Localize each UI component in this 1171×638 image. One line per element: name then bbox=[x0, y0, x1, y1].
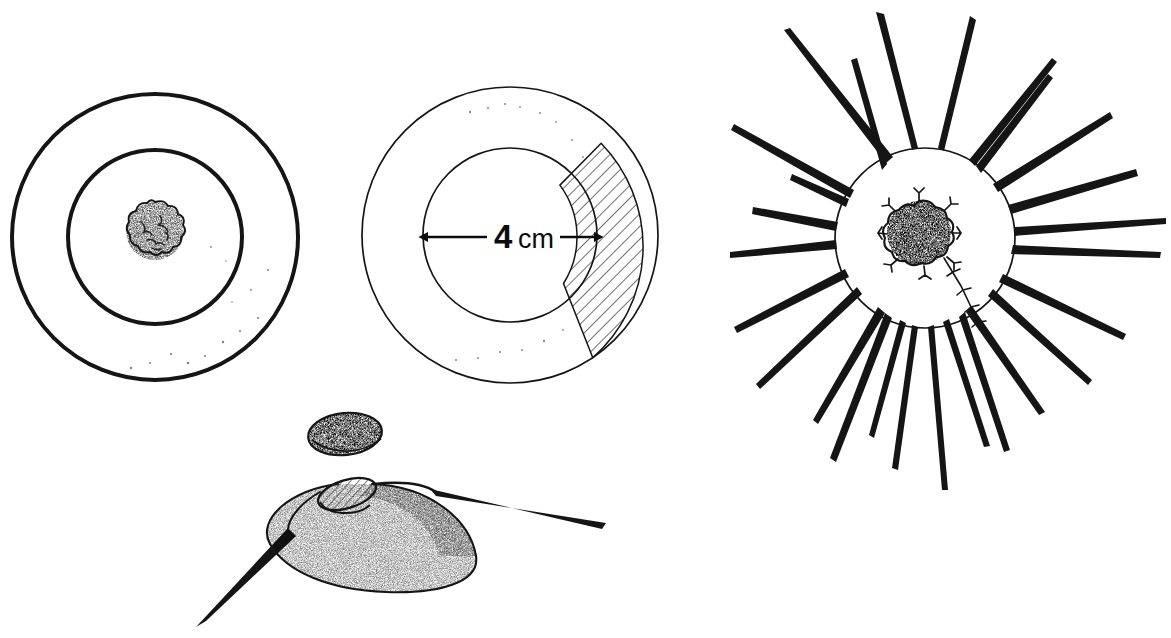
scale-value: 4 bbox=[494, 218, 513, 255]
illustration-canvas: 4 cm bbox=[0, 0, 1171, 638]
scale-unit: cm bbox=[518, 224, 554, 254]
illustration-plate: 4 cm bbox=[0, 0, 1171, 638]
